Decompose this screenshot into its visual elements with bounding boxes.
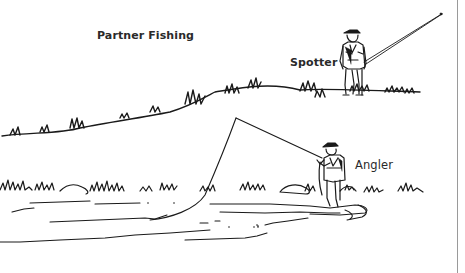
river-water: [0, 201, 367, 242]
partner-fishing-illustration: Partner Fishing Spotter Angler: [0, 0, 465, 273]
page-edge-divider: [457, 0, 458, 273]
spotter-figure: [340, 30, 366, 95]
spotter-label: Spotter: [290, 56, 337, 69]
figure-title: Partner Fishing: [97, 29, 194, 42]
angler-label: Angler: [355, 158, 393, 172]
scene-drawing: [0, 0, 465, 273]
lower-grass-bank: [0, 180, 423, 194]
angler-figure: [317, 143, 345, 207]
water-dots: [147, 202, 259, 228]
angler-rod-and-line: [150, 118, 322, 220]
spotter-rod: [364, 13, 442, 64]
upper-grass-bank: [2, 78, 420, 136]
